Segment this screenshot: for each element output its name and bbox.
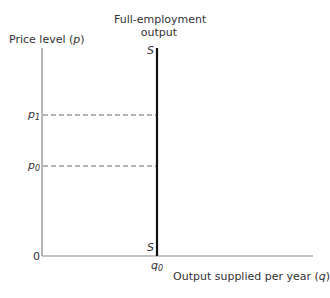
x-axis-label: Output supplied per year (q) [173,270,330,283]
full-employment-label: Full-employment output [114,13,204,39]
full-employment-line1: Full-employment [114,13,204,26]
diagram-canvas: Full-employment output Price level (p) S… [0,0,330,298]
full-employment-line2: output [114,26,204,39]
y-tick-p0: p0 [28,159,40,172]
y-tick-p1: p1 [28,108,40,121]
supply-label-bottom: S [147,241,154,254]
x-tick-q0: q0 [151,259,163,272]
origin-label: 0 [33,250,40,263]
supply-label-top: S [147,44,154,57]
y-axis-label: Price level (p) [9,33,85,46]
